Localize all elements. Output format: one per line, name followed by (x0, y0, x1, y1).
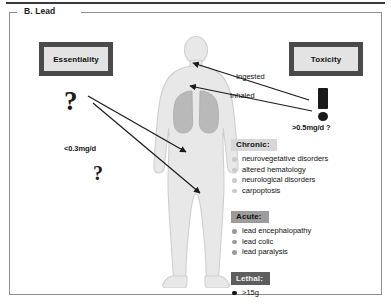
chronic-items: neurovegetative disorders altered hemato… (231, 154, 361, 196)
list-item: lead paralysis (231, 247, 361, 258)
panel-title: B. Lead (20, 6, 60, 16)
effects-section-acute: Acute: lead encephalopathy lead colic le… (231, 205, 361, 258)
arrow-label-ingested: Ingested (236, 72, 265, 81)
arrow-label-inhaled: Inhaled (230, 91, 255, 100)
section-heading-chronic: Chronic: (231, 139, 277, 152)
list-item: lead colic (231, 237, 361, 248)
list-item: lead encephalopathy (231, 226, 361, 237)
exclamation-bar (318, 88, 328, 109)
exclamation-mark-icon (316, 88, 330, 120)
section-heading-acute: Acute: (231, 211, 269, 224)
lethal-items: >15g (231, 288, 361, 299)
list-item: neurovegetative disorders (231, 154, 361, 165)
list-item: >15g (231, 288, 361, 299)
list-item: altered hematology (231, 165, 361, 176)
list-item: carpoptosis (231, 186, 361, 197)
acute-items: lead encephalopathy lead colic lead para… (231, 226, 361, 258)
essential-dose-label: <0.3mg/d (64, 144, 96, 153)
section-heading-lethal: Lethal: (231, 272, 270, 285)
essentiality-box: Essentiality (39, 42, 113, 76)
question-mark-lower: ? (93, 163, 103, 183)
figure-panel-b-lead: B. Lead Essentiality Toxicity ? ? (0, 0, 391, 306)
list-item: neurological disorders (231, 175, 361, 186)
toxicity-box: Toxicity (289, 42, 363, 76)
preceding-panel-rule (6, 2, 385, 4)
effects-section-lethal: Lethal: >15g (231, 267, 361, 299)
toxic-dose-label: >0.5mg/d ? (292, 123, 330, 132)
toxicity-label: Toxicity (311, 55, 341, 64)
exclamation-dot (318, 112, 328, 121)
effects-list-group: Chronic: neurovegetative disorders alter… (231, 133, 361, 298)
essentiality-label: Essentiality (53, 55, 99, 64)
effects-section-chronic: Chronic: neurovegetative disorders alter… (231, 133, 361, 196)
question-mark-upper: ? (64, 88, 78, 115)
